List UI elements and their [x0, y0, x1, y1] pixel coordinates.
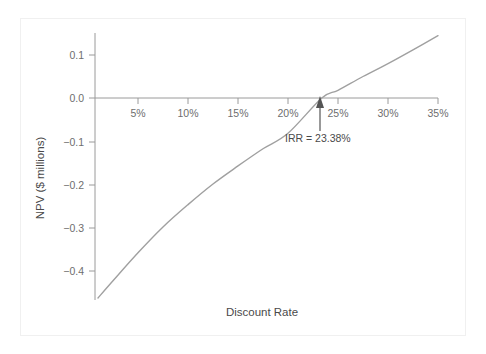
x-axis-title: Discount Rate [226, 306, 298, 318]
x-tick-label: 10% [177, 107, 198, 119]
y-tick-label: −0.1 [63, 136, 84, 148]
y-axis-ticks [89, 55, 95, 271]
x-tick-label: 25% [327, 107, 348, 119]
y-axis-tick-labels: 0.1 0.0 −0.1 −0.2 −0.3 −0.4 [63, 49, 84, 277]
y-axis-title: NPV ($ millions) [34, 137, 46, 220]
npv-profile-curve [98, 36, 438, 298]
npv-profile-chart: 0.1 0.0 −0.1 −0.2 −0.3 −0.4 5% 10% 15% 2… [0, 0, 486, 354]
y-tick-label: −0.2 [63, 179, 84, 191]
x-axis-ticks [138, 98, 438, 104]
y-tick-label: −0.3 [63, 222, 84, 234]
figure-root: 0.1 0.0 −0.1 −0.2 −0.3 −0.4 5% 10% 15% 2… [0, 0, 486, 354]
x-tick-label: 15% [227, 107, 248, 119]
y-tick-label: −0.4 [63, 265, 84, 277]
x-axis-tick-labels: 5% 10% 15% 20% 25% 30% 35% [130, 107, 448, 119]
irr-arrow [316, 96, 324, 131]
x-tick-label: 5% [130, 107, 145, 119]
y-tick-label: 0.0 [69, 92, 84, 104]
x-tick-label: 30% [377, 107, 398, 119]
x-tick-label: 35% [427, 107, 448, 119]
x-tick-label: 20% [277, 107, 298, 119]
y-tick-label: 0.1 [69, 49, 84, 61]
irr-annotation-label: IRR = 23.38% [285, 132, 351, 144]
